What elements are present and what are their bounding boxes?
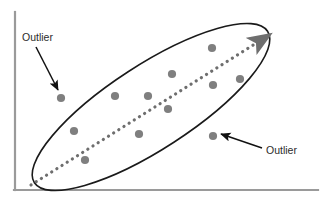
- data-point-outlier: [209, 132, 217, 140]
- outlier-scatter-figure: Outlier Outlier: [0, 0, 321, 203]
- data-point: [236, 75, 244, 83]
- data-point: [81, 156, 89, 164]
- data-point: [70, 127, 78, 135]
- outlier-label-bottom-right: Outlier: [266, 144, 297, 156]
- outlier-label-top-left: Outlier: [22, 31, 53, 43]
- data-point: [208, 44, 216, 52]
- outlier-arrow-bottom-right: [221, 134, 262, 148]
- data-point: [57, 94, 65, 102]
- plot-area: [12, 0, 291, 203]
- data-point: [168, 70, 176, 78]
- data-point: [144, 92, 152, 100]
- data-point: [209, 81, 217, 89]
- data-point: [111, 92, 119, 100]
- cluster-ellipse: [12, 0, 291, 203]
- data-point: [135, 130, 143, 138]
- data-point: [164, 105, 172, 113]
- annotation-outlier-bottom-right: Outlier: [221, 134, 297, 156]
- annotation-outlier-top-left: Outlier: [22, 31, 58, 90]
- outlier-arrow-top-left: [36, 47, 58, 90]
